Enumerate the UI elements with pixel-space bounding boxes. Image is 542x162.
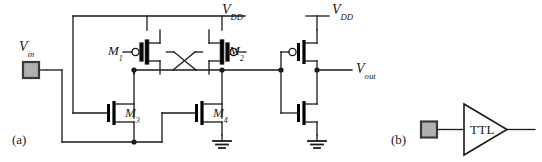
label-vout: Vout <box>356 62 376 78</box>
node-a-wires <box>134 70 222 118</box>
panel-label-b: (b) <box>391 133 406 146</box>
cross-coupling-wires <box>167 52 203 70</box>
input-pad-panel-b[interactable] <box>421 122 437 138</box>
label-m1: M1 <box>108 44 123 61</box>
figure-canvas: Vin VDD VDD Vout M1 M2 M3 M4 TTL (a) (b) <box>0 0 542 162</box>
transistor-m1 <box>123 30 160 74</box>
panel-label-a: (a) <box>12 133 26 146</box>
ground-symbol-m4 <box>213 135 231 148</box>
node-b-wires <box>222 70 281 118</box>
ttl-buffer-label: TTL <box>470 122 495 138</box>
circuit-schematic <box>0 0 542 162</box>
output-inverter <box>281 16 352 135</box>
label-vin: Vin <box>19 40 34 56</box>
label-m3: M3 <box>125 106 140 123</box>
label-m2: M2 <box>229 44 244 61</box>
vdd-rail-left <box>73 16 245 113</box>
input-pad-panel-a[interactable] <box>23 62 39 78</box>
label-m4: M4 <box>213 106 228 123</box>
input-bottom-rail <box>47 70 162 142</box>
label-vdd-left: VDD <box>222 3 243 19</box>
label-vdd-right: VDD <box>332 3 353 19</box>
ground-symbol-inverter <box>308 135 326 148</box>
